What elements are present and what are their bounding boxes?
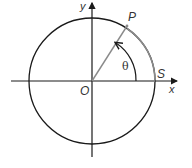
arc-sp <box>127 29 155 82</box>
y-axis-label: y <box>79 0 87 12</box>
angle-theta-label: θ <box>122 60 129 73</box>
point-p-label: P <box>128 10 136 24</box>
point-s-label: S <box>157 67 165 81</box>
x-axis-label: x <box>168 83 175 95</box>
unit-circle-diagram: y x O P S θ <box>0 0 192 168</box>
point-p-marker <box>126 25 129 28</box>
origin-label: O <box>80 84 89 98</box>
